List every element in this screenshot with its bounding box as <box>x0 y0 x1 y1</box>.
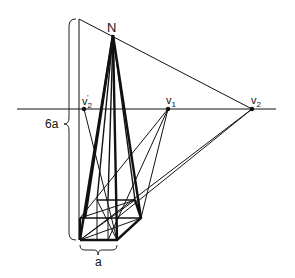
construction-line-v2prime <box>84 109 117 240</box>
base-width-label: a <box>95 255 102 269</box>
base-diag-3 <box>97 200 117 240</box>
vp1-label: v1 <box>166 94 177 109</box>
vp2-dot <box>250 107 254 111</box>
vp2-prime-dot <box>82 107 86 111</box>
height-label: 6a <box>45 117 59 131</box>
base-diag-4 <box>80 218 141 240</box>
vp1-dot <box>166 107 170 111</box>
construction-line-v2-a <box>80 109 252 240</box>
construction-line-v2-b <box>117 109 252 218</box>
vp2-label: v2 <box>251 94 262 109</box>
apex-label: N <box>107 20 116 35</box>
perspective-pyramid-diagram: N v2' v1 v2 6a a <box>0 0 295 278</box>
height-brace <box>64 19 76 240</box>
base-width-brace <box>80 245 117 255</box>
